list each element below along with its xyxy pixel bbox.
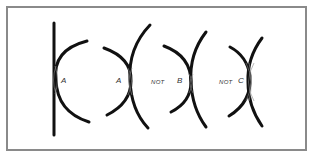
right-arc — [191, 32, 206, 127]
figure-2 — [104, 25, 150, 128]
figure-3 — [164, 32, 206, 127]
figure-3-prefix: NOT — [151, 79, 165, 85]
figure-1-label: A — [61, 77, 66, 85]
figure-4-label: C — [238, 77, 244, 85]
figure-2-label: A — [116, 77, 121, 85]
figure-1 — [54, 23, 90, 135]
contact-curves-diagram — [0, 0, 311, 156]
figure-4-prefix: NOT — [219, 79, 233, 85]
figure-3-label: B — [177, 77, 182, 85]
figure-4 — [229, 38, 262, 126]
right-arc — [130, 25, 150, 128]
